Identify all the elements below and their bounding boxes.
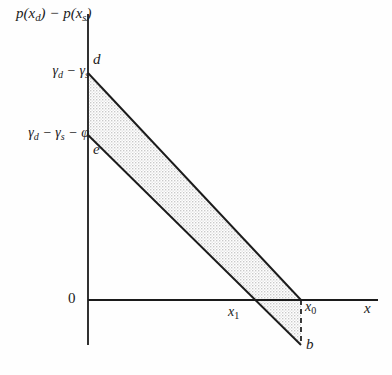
y-axis-label: p(xd) − p(xs) <box>16 6 92 21</box>
tick-top-sub-d: d <box>58 69 63 80</box>
y-tick-label-gamma-d-minus-gamma-s-minus-phi: γd − γs − φ <box>28 126 89 140</box>
point-label-b: b <box>306 337 314 352</box>
x-tick-x0-sub: 0 <box>311 305 316 316</box>
x-axis-label: x <box>364 301 371 316</box>
tick-mid-sub-d: d <box>34 131 39 142</box>
y-tick-label-gamma-d-minus-gamma-s: γd − γs <box>53 64 89 78</box>
shaded-region <box>88 73 301 345</box>
x-tick-x1-sub: 1 <box>234 310 239 321</box>
origin-zero-label: 0 <box>68 291 76 306</box>
lower-line <box>88 135 301 345</box>
plot-canvas <box>0 0 392 375</box>
x-tick-label-x0: x0 <box>305 300 316 314</box>
upper-line <box>88 73 301 300</box>
y-axis-label-sub-d: d <box>35 11 40 23</box>
point-label-e: e <box>93 142 100 157</box>
figure-container: p(xd) − p(xs) γd − γs γd − γs − φ 0 d e … <box>0 0 392 375</box>
x-tick-label-x1: x1 <box>228 305 239 319</box>
y-axis-label-sub-s: s <box>82 11 86 23</box>
point-label-d: d <box>93 52 101 67</box>
tick-mid-sub-s: s <box>61 131 65 142</box>
tick-top-sub-s: s <box>85 69 89 80</box>
